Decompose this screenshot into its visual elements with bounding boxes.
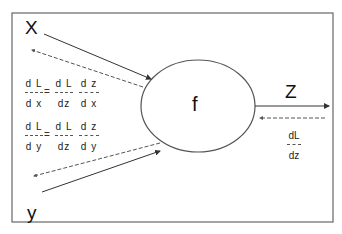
dl-dz-term: d Ldz (54, 78, 74, 109)
dl-dy-lhs: d Ld y (24, 121, 44, 152)
diagram-canvas (0, 0, 342, 234)
equals-sign: = (44, 129, 50, 140)
input-y-label: y (27, 202, 37, 224)
output-z-label: Z (285, 81, 297, 103)
frame (12, 13, 333, 222)
dl-dz-term: d Ldz (54, 121, 74, 152)
input-x-label: X (25, 17, 38, 39)
dz-dy-term: d zd y (78, 121, 100, 152)
dz-dx-term: d zd x (78, 78, 100, 109)
y-forward-arrow (42, 151, 160, 192)
dl-dz-output-gradient: dLdz (286, 130, 302, 161)
node-f-label: f (192, 93, 198, 116)
function-node (141, 60, 255, 152)
dl-dx-lhs: d Ld x (24, 78, 44, 109)
x-forward-arrow (44, 34, 151, 79)
equals-sign: = (44, 86, 50, 97)
